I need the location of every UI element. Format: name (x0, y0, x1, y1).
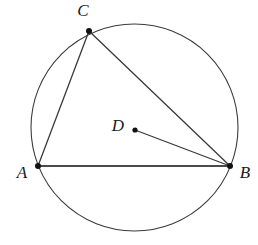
point-a-dot (35, 163, 41, 169)
point-b-label: B (240, 163, 251, 182)
point-a-label: A (16, 163, 28, 182)
geometry-canvas: A B C D (0, 0, 258, 245)
point-c-label: C (77, 1, 89, 20)
point-d-dot (132, 127, 137, 132)
point-b-dot (227, 163, 233, 169)
point-d-label: D (111, 116, 125, 135)
point-c-dot (86, 28, 92, 34)
segment-ac (38, 31, 89, 166)
segment-cb (89, 31, 230, 166)
geometry-diagram: A B C D (0, 0, 258, 245)
segment-db (135, 130, 230, 166)
